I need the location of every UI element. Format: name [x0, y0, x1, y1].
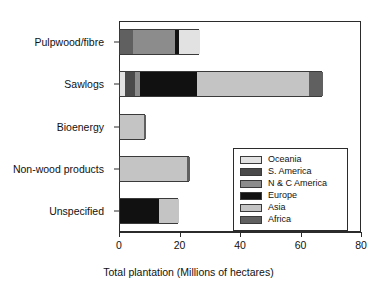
legend-item: N & C America: [240, 178, 342, 189]
y-axis-label: Non-wood products: [13, 163, 104, 175]
x-axis-tick: [240, 232, 241, 237]
y-axis-tick: [114, 126, 119, 127]
legend-swatch-icon: [240, 156, 262, 164]
legend-label: S. America: [268, 167, 312, 176]
y-axis-tick: [114, 168, 119, 169]
y-axis-tick: [114, 42, 119, 43]
legend-label: Oceania: [268, 155, 302, 164]
x-axis-tick: [180, 232, 181, 237]
legend-label: N & C America: [268, 179, 327, 188]
bar-non-wood-products: [119, 156, 189, 182]
legend-swatch-icon: [240, 204, 262, 212]
bar-segment-asia: [120, 115, 144, 139]
bar-bioenergy: [119, 114, 145, 140]
bar-segment-s-america: [125, 72, 135, 96]
bar-segment-africa: [120, 30, 133, 54]
y-axis-labels: Pulpwood/fibreSawlogsBioenergyNon-wood p…: [0, 0, 113, 291]
bar-segment-africa: [309, 72, 322, 96]
bar-segment-europe: [120, 199, 159, 223]
y-axis-label: Pulpwood/fibre: [35, 36, 104, 48]
x-axis-tick: [119, 232, 120, 237]
x-axis-tick: [301, 232, 302, 237]
bar-segment-africa: [144, 115, 146, 139]
x-axis-title: Total plantation (Millions of hectares): [0, 266, 377, 278]
legend-label: Africa: [268, 215, 291, 224]
y-axis-tick: [114, 210, 119, 211]
chart-figure: Pulpwood/fibreSawlogsBioenergyNon-wood p…: [0, 0, 377, 291]
legend-item: Asia: [240, 202, 342, 213]
bar-segment-asia: [120, 157, 187, 181]
x-axis-tick: [361, 232, 362, 237]
legend-swatch-icon: [240, 168, 262, 176]
x-axis-tick-label: 60: [295, 239, 307, 251]
legend-item: Europe: [240, 190, 342, 201]
legend-label: Europe: [268, 191, 297, 200]
y-axis-label: Sawlogs: [64, 78, 104, 90]
bar-segment-oceania: [179, 30, 200, 54]
bar-segment-europe: [140, 72, 197, 96]
y-axis-tick: [114, 84, 119, 85]
x-axis-tick-label: 0: [116, 239, 122, 251]
legend-item: S. America: [240, 166, 342, 177]
bar-unspecified: [119, 198, 178, 224]
bar-segment-africa: [187, 157, 190, 181]
y-axis-label: Bioenergy: [57, 121, 104, 133]
x-axis-tick-label: 20: [174, 239, 186, 251]
bar-segment-asia: [159, 199, 179, 223]
bar-pulpwood-fibre: [119, 29, 199, 55]
y-axis-label: Unspecified: [49, 205, 104, 217]
x-axis-tick-label: 80: [355, 239, 367, 251]
bar-segment-asia: [197, 72, 309, 96]
bar-sawlogs: [119, 71, 322, 97]
legend-swatch-icon: [240, 216, 262, 224]
x-axis-tick-label: 40: [234, 239, 246, 251]
legend-swatch-icon: [240, 192, 262, 200]
legend-swatch-icon: [240, 180, 262, 188]
legend-item: Oceania: [240, 154, 342, 165]
bar-segment-n-c-america: [133, 30, 175, 54]
legend-label: Asia: [268, 203, 286, 212]
legend-item: Africa: [240, 214, 342, 225]
chart-legend: OceaniaS. AmericaN & C AmericaEuropeAsia…: [233, 148, 348, 231]
